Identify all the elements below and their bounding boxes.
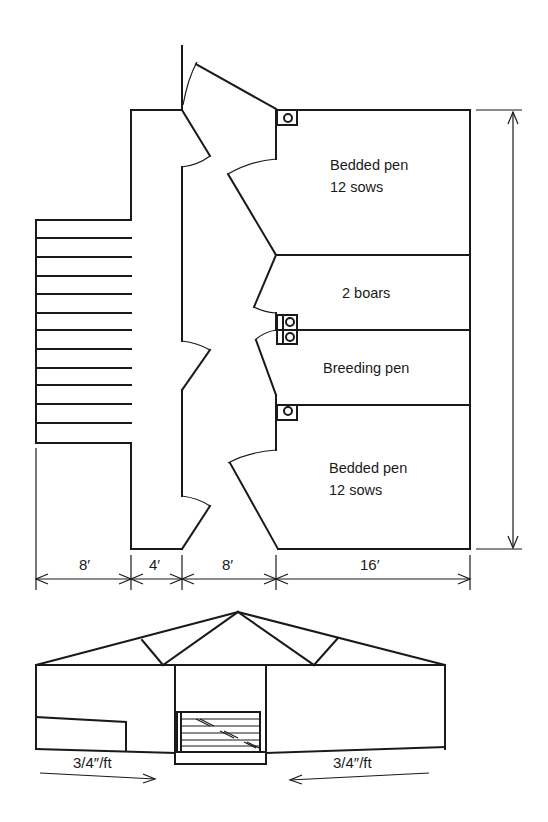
dimension-vertical [476,110,522,549]
slope-arrow-right [290,773,429,784]
barn-diagram: Bedded pen 12 sows 2 boars Breeding pen … [0,0,548,822]
pen-label-2: 2 boars [342,285,390,301]
waterer-icon [277,110,297,125]
slope-arrow-left [40,773,155,783]
pen-label-4-line1: Bedded pen [329,460,407,476]
waterer-icon [277,315,297,344]
pen-label-1-line1: Bedded pen [330,157,408,173]
dimension-label-1: 4′ [149,556,160,573]
stairs-icon [36,110,182,549]
building-walls [36,665,445,764]
waterer-icon [277,405,297,420]
gate-icon [177,712,260,752]
slope-label-right: 3/4″/ft [333,754,372,771]
dimension-label-2: 8′ [222,556,233,573]
pen-label-1-line2: 12 sows [330,179,383,195]
pen-label-3: Breeding pen [323,360,409,376]
dimension-label-0: 8′ [79,556,90,573]
alley-wall [182,110,210,549]
roof-truss [36,612,445,665]
dimension-label-3: 16′ [360,556,380,573]
slope-label-left: 3/4″/ft [73,754,112,771]
pen-label-4-line2: 12 sows [329,482,382,498]
plan-view: Bedded pen 12 sows 2 boars Breeding pen … [36,46,522,590]
elevation-view: 3/4″/ft 3/4″/ft [36,612,445,784]
gate-icon [183,62,276,109]
